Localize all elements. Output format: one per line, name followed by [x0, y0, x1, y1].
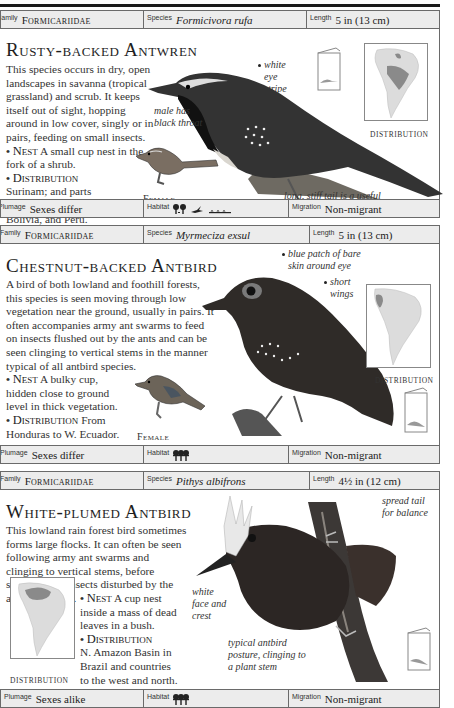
annotation-spread-tail: spread tail for balance	[382, 495, 438, 519]
annotation-short-wings: short wings	[324, 276, 360, 300]
habitat-icons	[173, 203, 233, 215]
species-cell: Species Myrmeciza exsul	[144, 226, 310, 243]
species-1-header-bar: Family Formicariidae Species Formicivora…	[0, 10, 440, 29]
family-label: Family	[1, 229, 21, 236]
length-value: 5 in (13 cm)	[338, 229, 392, 241]
species-value: Formicivora rufa	[176, 14, 253, 26]
plumage-value: Sexes differ	[32, 449, 85, 461]
white-plumed-antbird-illustration	[196, 496, 400, 646]
species-1-footer-bar: Plumage Sexes differ Habitat Migration N…	[0, 199, 440, 218]
migration-cell: Migration Non-migrant	[289, 446, 439, 463]
distribution-map	[366, 284, 431, 368]
trees-icon	[173, 204, 186, 214]
south-america-map	[365, 44, 427, 120]
plumage-label: Plumage	[1, 203, 26, 210]
nest-heading: Nest	[13, 144, 38, 158]
habitat-cell: Habitat	[144, 446, 289, 463]
family-value: Formicariidae	[25, 229, 94, 241]
plumage-cell: Plumage Sexes alike	[1, 690, 144, 707]
distribution-text: N. Amazon Basin in Brazil and countries …	[80, 646, 178, 685]
nest-heading: Nest	[13, 372, 38, 386]
habitat-label: Habitat	[147, 449, 169, 456]
female-bird-illustration	[135, 372, 207, 420]
annotation-black-throat: male has black throat	[154, 105, 204, 129]
family-cell: Family Formicariidae	[1, 11, 144, 28]
annotation-white-face: white face and crest	[192, 586, 232, 622]
species-2-panel: Chestnut-backed Antbird A bird of both l…	[0, 244, 440, 445]
distribution-heading: Distribution	[13, 413, 79, 427]
length-cell: Length 5 in (13 cm)	[307, 11, 439, 28]
migration-value: Non-migrant	[325, 449, 382, 461]
family-cell: Family Formicariidae	[1, 472, 144, 489]
species-label: Species	[147, 14, 172, 21]
species-label: Species	[147, 475, 172, 482]
distribution-heading: Distribution	[13, 171, 79, 185]
field-guide-book-icon	[406, 627, 432, 671]
rainforest-icon	[173, 449, 189, 461]
migration-value: Non-migrant	[325, 693, 382, 705]
species-cell: Species Formicivora rufa	[144, 11, 307, 28]
species-cell: Species Pithys albifrons	[144, 472, 310, 489]
habitat-label: Habitat	[147, 693, 169, 700]
distribution-map	[364, 43, 428, 121]
species-2-footer-bar: Plumage Sexes differ Habitat Migration N…	[0, 445, 440, 464]
annotation-eye-stripe: white eye stripe	[258, 59, 298, 95]
length-label: Length	[313, 229, 334, 236]
species-value: Pithys albifrons	[176, 475, 246, 487]
habitat-cell: Habitat	[144, 690, 289, 707]
length-label: Length	[313, 475, 334, 482]
migration-label: Migration	[292, 693, 321, 700]
migration-label: Migration	[292, 449, 321, 456]
species-3-panel: White-plumed Antbird This lowland rain f…	[0, 490, 440, 689]
south-america-map	[367, 285, 430, 367]
species-1-panel: Rusty-backed Antwren This species occurs…	[0, 29, 440, 199]
length-value: 4½ in (12 cm)	[338, 475, 400, 487]
field-guide-book-icon	[316, 47, 342, 91]
map-caption: Distribution	[370, 130, 429, 139]
length-cell: Length 5 in (13 cm)	[310, 226, 439, 243]
plumage-cell: Plumage Sexes differ	[1, 446, 144, 463]
migration-cell: Migration Non-migrant	[289, 200, 439, 217]
plumage-label: Plumage	[4, 693, 32, 700]
species-2-header-bar: Family Formicariidae Species Myrmeciza e…	[0, 225, 440, 244]
annotation-eye-patch: blue patch of bare skin around eye	[282, 248, 362, 272]
migration-label: Migration	[292, 203, 321, 210]
habitat-label: Habitat	[147, 203, 169, 210]
top-rule	[0, 4, 440, 7]
field-guide-book-icon	[403, 387, 429, 433]
plumage-label: Plumage	[1, 449, 28, 456]
scrub-icon	[191, 206, 203, 213]
plumage-value: Sexes alike	[36, 693, 86, 705]
length-value: 5 in (13 cm)	[335, 14, 389, 26]
species-3-header-bar: Family Formicariidae Species Pithys albi…	[0, 471, 440, 490]
plumage-value: Sexes differ	[30, 203, 83, 215]
species-value: Myrmeciza exsul	[176, 229, 250, 241]
rainforest-icon	[173, 693, 189, 705]
map-caption: Distribution	[375, 376, 434, 385]
family-value: Formicariidae	[25, 475, 94, 487]
family-label: Family	[1, 14, 18, 21]
description-text: A bird of both lowland and foothill fore…	[6, 278, 214, 372]
length-label: Length	[310, 14, 331, 21]
length-cell: Length 4½ in (12 cm)	[310, 472, 439, 489]
female-caption: Female	[137, 431, 169, 442]
distribution-heading: Distribution	[87, 632, 153, 646]
species-title: White-plumed Antbird	[6, 501, 191, 523]
species-label: Species	[147, 229, 172, 236]
family-label: Family	[1, 475, 21, 482]
annotation-posture: typical antbird posture, clinging to a p…	[228, 637, 310, 673]
species-notes: • Nest A cup nest inside a mass of dead …	[80, 592, 180, 687]
migration-value: Non-migrant	[325, 203, 382, 215]
family-cell: Family Formicariidae	[1, 226, 144, 243]
migration-cell: Migration Non-migrant	[289, 690, 439, 707]
female-bird-illustration	[136, 146, 220, 186]
species-title: Rusty-backed Antwren	[6, 39, 197, 61]
distribution-map	[10, 577, 75, 659]
plumage-cell: Plumage Sexes differ	[1, 200, 144, 217]
habitat-cell: Habitat	[144, 200, 289, 217]
south-america-map	[11, 578, 74, 658]
grassland-icon	[209, 210, 231, 213]
map-caption: Distribution	[10, 676, 69, 685]
species-3-footer-bar: Plumage Sexes alike Habitat Migration No…	[0, 689, 440, 708]
species-title: Chestnut-backed Antbird	[6, 255, 217, 277]
